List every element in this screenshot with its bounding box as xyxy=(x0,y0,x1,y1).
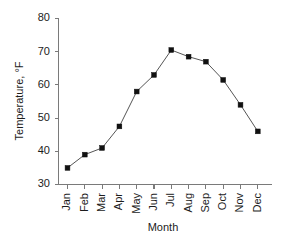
data-point-feb xyxy=(82,152,87,157)
y-tick-label-40: 40 xyxy=(38,144,50,156)
x-tick-label-mar: Mar xyxy=(95,193,107,212)
y-tick-label-80: 80 xyxy=(38,11,50,23)
temperature-series-markers xyxy=(65,48,260,171)
x-tick-label-sep: Sep xyxy=(199,193,211,213)
x-tick-label-nov: Nov xyxy=(233,193,245,213)
y-tick-label-30: 30 xyxy=(38,177,50,189)
x-tick-label-jan: Jan xyxy=(60,193,72,211)
data-point-dec xyxy=(255,129,260,134)
chart-plot-area: 30 40 50 60 70 80 Jan Feb Mar Apr May Ju… xyxy=(0,0,282,242)
y-axis-title: Temperature, °F xyxy=(13,61,25,140)
x-axis-ticks xyxy=(68,185,258,190)
data-point-jun xyxy=(152,73,157,78)
x-tick-label-jun: Jun xyxy=(147,193,159,211)
x-tick-label-dec: Dec xyxy=(251,193,263,213)
data-point-may xyxy=(134,89,139,94)
data-point-jan xyxy=(65,166,70,171)
data-point-mar xyxy=(100,146,105,151)
y-tick-label-60: 60 xyxy=(38,78,50,90)
temperature-line-chart: 30 40 50 60 70 80 Jan Feb Mar Apr May Ju… xyxy=(0,0,282,242)
x-tick-label-apr: Apr xyxy=(112,193,124,210)
data-point-jul xyxy=(169,48,174,53)
x-tick-label-may: May xyxy=(130,193,142,214)
y-tick-label-50: 50 xyxy=(38,111,50,123)
x-tick-label-jul: Jul xyxy=(164,193,176,207)
data-point-nov xyxy=(238,102,243,107)
data-point-oct xyxy=(221,78,226,83)
temperature-series-line xyxy=(68,50,258,168)
y-axis-ticks xyxy=(55,19,59,185)
data-point-sep xyxy=(204,59,209,64)
x-tick-label-oct: Oct xyxy=(216,193,228,210)
x-tick-label-feb: Feb xyxy=(78,193,90,212)
data-point-aug xyxy=(186,54,191,59)
x-tick-label-aug: Aug xyxy=(182,193,194,213)
y-tick-label-70: 70 xyxy=(38,45,50,57)
data-point-apr xyxy=(117,124,122,129)
x-axis-title: Month xyxy=(148,221,179,233)
